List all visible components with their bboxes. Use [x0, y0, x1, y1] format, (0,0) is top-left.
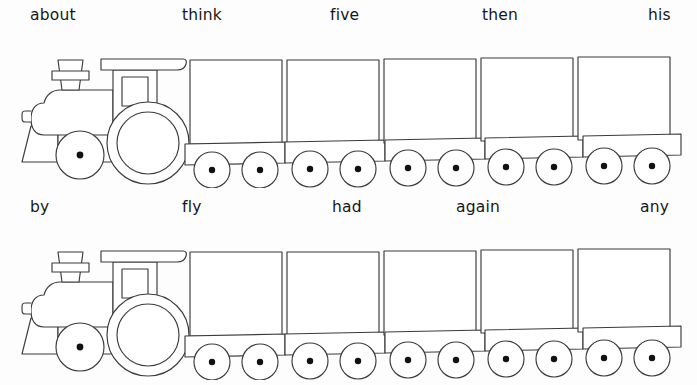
- wheel-icon: [438, 150, 474, 186]
- train-car-icon: [481, 58, 583, 185]
- wheel-icon: [634, 340, 670, 376]
- train-row-1: about think five then his: [0, 0, 697, 192]
- car-box-icon: [578, 57, 670, 140]
- wheel-icon: [242, 152, 278, 188]
- wheel-icon: [340, 343, 376, 379]
- wheel-icon: [292, 343, 328, 379]
- locomotive-icon: [22, 59, 189, 184]
- smokestack-band-icon: [52, 263, 89, 272]
- wheel-icon: [586, 340, 622, 376]
- wheel-icon: [488, 149, 524, 185]
- wheel-icon: [390, 342, 426, 378]
- word-label-by: by: [30, 200, 49, 216]
- train-car-icon: [285, 252, 385, 379]
- word-label-think: think: [182, 8, 222, 24]
- word-label-had: had: [332, 200, 362, 216]
- drive-wheel-icon: [107, 102, 189, 184]
- wheel-icon: [634, 148, 670, 184]
- train-graphic-row-2: [0, 220, 697, 380]
- car-box-icon: [481, 250, 573, 333]
- wheel-icon: [536, 149, 572, 185]
- wheel-icon: [56, 131, 104, 179]
- wheel-icon: [340, 151, 376, 187]
- boiler-icon: [31, 90, 113, 135]
- wheel-icon: [194, 152, 230, 188]
- cab-roof-icon: [101, 251, 186, 262]
- boiler-icon: [31, 282, 113, 327]
- car-box-icon: [481, 58, 573, 141]
- word-label-again: again: [456, 200, 500, 216]
- word-label-five: five: [330, 8, 359, 24]
- word-label-then: then: [482, 8, 518, 24]
- car-box-icon: [384, 59, 476, 143]
- train-car-icon: [578, 57, 681, 184]
- headlight-icon: [22, 303, 31, 314]
- train-graphic-row-1: [0, 28, 697, 188]
- train-car-icon: [384, 251, 485, 378]
- car-box-icon: [190, 60, 282, 144]
- wheel-icon: [536, 341, 572, 377]
- car-box-icon: [287, 252, 379, 336]
- wheel-icon: [56, 323, 104, 371]
- train-car-icon: [578, 249, 681, 376]
- drive-wheel-icon: [107, 294, 189, 376]
- train-car-icon: [384, 59, 485, 186]
- wheel-icon: [390, 150, 426, 186]
- worksheet-page: about think five then his: [0, 0, 697, 385]
- wheel-icon: [438, 342, 474, 378]
- wheel-icon: [194, 344, 230, 380]
- word-label-any: any: [640, 200, 669, 216]
- word-label-about: about: [30, 8, 76, 24]
- wheel-icon: [242, 344, 278, 380]
- train-car-icon: [185, 60, 285, 188]
- train-car-icon: [185, 252, 285, 380]
- wheel-icon: [488, 341, 524, 377]
- car-box-icon: [578, 249, 670, 332]
- car-box-icon: [384, 251, 476, 335]
- train-car-icon: [285, 60, 385, 187]
- word-label-fly: fly: [182, 200, 202, 216]
- word-label-his: his: [648, 8, 671, 24]
- wheel-icon: [586, 148, 622, 184]
- wheel-icon: [292, 151, 328, 187]
- headlight-icon: [22, 111, 31, 122]
- cab-roof-icon: [101, 59, 186, 70]
- car-box-icon: [190, 252, 282, 336]
- locomotive-icon: [22, 251, 189, 376]
- car-box-icon: [287, 60, 379, 144]
- train-car-icon: [481, 250, 583, 377]
- train-row-2: by fly had again any: [0, 192, 697, 384]
- smokestack-band-icon: [52, 71, 89, 80]
